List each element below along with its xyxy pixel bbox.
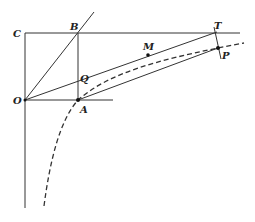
line-o-b bbox=[25, 12, 94, 100]
label-m: M bbox=[142, 41, 155, 52]
label-o: O bbox=[13, 95, 22, 106]
label-t: T bbox=[214, 20, 223, 31]
point-o bbox=[24, 99, 27, 102]
label-c: C bbox=[13, 28, 21, 39]
line-o-t bbox=[25, 32, 217, 100]
label-a: A bbox=[79, 104, 88, 115]
geometry-diagram: C B O Q A M T P bbox=[0, 0, 255, 222]
segment-t-p bbox=[214, 27, 221, 59]
point-p bbox=[216, 46, 220, 50]
label-p: P bbox=[221, 50, 230, 61]
point-a bbox=[76, 98, 80, 102]
label-b: B bbox=[69, 21, 78, 32]
dashed-curve bbox=[44, 43, 244, 206]
point-m bbox=[146, 53, 150, 57]
diagram-canvas: C B O Q A M T P bbox=[0, 0, 255, 222]
label-q: Q bbox=[80, 73, 89, 84]
